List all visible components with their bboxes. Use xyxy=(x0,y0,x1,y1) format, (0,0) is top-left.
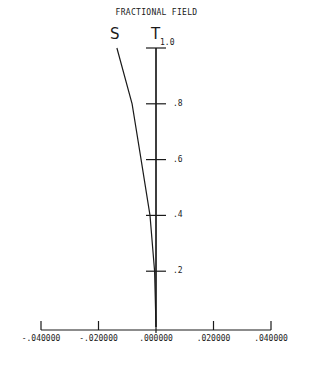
x-tick-label: .020000 xyxy=(197,335,231,343)
y-tick-label: .4 xyxy=(173,211,183,219)
y-tick-label: .8 xyxy=(173,100,183,108)
x-tick-label: .000000 xyxy=(139,335,173,343)
x-tick-label: .040000 xyxy=(254,335,288,343)
sagittal-curve xyxy=(117,48,156,327)
x-tick-label: -.040000 xyxy=(22,335,61,343)
sagittal-label: S xyxy=(110,27,120,42)
astigmatism-plot xyxy=(0,0,313,365)
x-tick-label: -.020000 xyxy=(79,335,118,343)
y-tick-label: 1.0 xyxy=(160,39,174,47)
y-tick-label: .6 xyxy=(173,156,183,164)
tangential-label: T xyxy=(151,27,160,42)
y-tick-label: .2 xyxy=(173,267,183,275)
